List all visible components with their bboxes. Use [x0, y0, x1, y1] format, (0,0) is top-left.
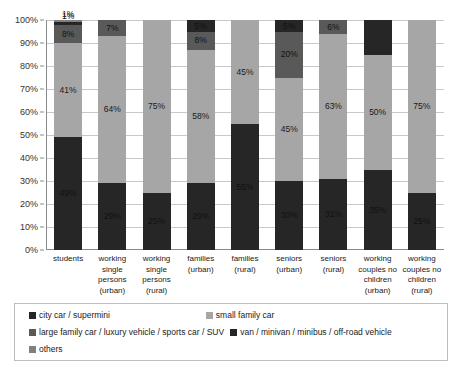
y-axis-tick-label: 60% [20, 107, 38, 117]
bar-stack[interactable]: 25%75% [143, 20, 171, 250]
bar-stack[interactable]: 30%45%20%5% [275, 20, 303, 250]
bar-value-label: 58% [192, 112, 209, 121]
legend-label: others [39, 344, 63, 354]
bar-value-label: 20% [281, 50, 298, 59]
bar-segment[interactable]: 1% [54, 22, 82, 24]
y-axis-tick-mark [40, 112, 44, 113]
bar-column: 30%45%20%5% [267, 20, 311, 250]
legend-item-van-minivan[interactable]: van / minivan / minibus / off-road vehic… [230, 327, 392, 337]
y-axis-tick-label: 100% [15, 15, 38, 25]
legend-swatch-icon [29, 329, 36, 336]
bar-value-label: 50% [369, 108, 386, 117]
x-axis-tick-label: seniors(urban) [267, 252, 311, 300]
legend-row-3: others [29, 344, 447, 361]
bar-group: 49%41%8%1%1%29%64%7%25%75%29%58%8%5%55%4… [46, 20, 444, 250]
x-axis-tick-label: students [46, 252, 90, 300]
bar-column: 29%64%7% [90, 20, 134, 250]
y-axis-tick-label: 90% [20, 38, 38, 48]
legend-label: city car / supermini [39, 310, 110, 320]
legend-item-small-family-car[interactable]: small family car [206, 310, 275, 320]
bar-segment[interactable]: 29% [98, 183, 126, 250]
bar-segment[interactable]: 20% [275, 32, 303, 78]
bar-column: 49%41%8%1%1% [46, 20, 90, 250]
bar-stack[interactable]: 35%50% [364, 20, 392, 250]
chart-legend: city car / supermini small family car la… [14, 303, 448, 361]
plot-area: 49%41%8%1%1%29%64%7%25%75%29%58%8%5%55%4… [46, 20, 444, 250]
y-axis-tick-mark [40, 43, 44, 44]
bar-segment[interactable]: 29% [187, 183, 215, 250]
bar-segment[interactable] [364, 20, 392, 55]
y-axis-tick-label: 80% [20, 61, 38, 71]
legend-swatch-icon [230, 329, 237, 336]
bar-value-label: 45% [236, 68, 253, 77]
bar-stack[interactable]: 55%45% [231, 20, 259, 250]
bar-value-label: 6% [327, 23, 339, 32]
bar-segment[interactable]: 6% [319, 20, 347, 34]
bar-segment[interactable]: 35% [364, 170, 392, 251]
x-axis-tick-label: workingsinglepersons(rural) [134, 252, 178, 300]
bar-column: 55%45% [223, 20, 267, 250]
bar-stack[interactable]: 49%41%8%1%1% [54, 20, 82, 250]
y-axis-tick-mark [40, 20, 44, 21]
bar-value-label: 1% [62, 10, 74, 18]
bar-segment[interactable]: 8% [54, 25, 82, 43]
bar-segment[interactable]: 75% [143, 20, 171, 193]
bar-segment[interactable]: 55% [231, 124, 259, 251]
x-axis-tick-label: workingcouples nochildren(urban) [356, 252, 400, 300]
bar-segment[interactable]: 49% [54, 137, 82, 250]
bar-column: 25%75% [134, 20, 178, 250]
legend-row-2: large family car / luxury vehicle / spor… [29, 327, 447, 344]
y-axis-tick-mark [40, 181, 44, 182]
x-axis-tick-label: families(rural) [223, 252, 267, 300]
y-axis-tick-mark [40, 158, 44, 159]
bar-stack[interactable]: 29%58%8%5% [187, 20, 215, 250]
bar-segment[interactable]: 31% [319, 179, 347, 250]
bar-column: 31%63%6% [311, 20, 355, 250]
bar-segment[interactable]: 58% [187, 50, 215, 183]
bar-value-label: 30% [281, 211, 298, 220]
bar-value-label: 5% [283, 22, 295, 31]
bar-value-label: 45% [281, 125, 298, 134]
bar-value-label: 75% [148, 102, 165, 111]
bar-value-label: 49% [60, 189, 77, 198]
legend-label: small family car [216, 310, 275, 320]
bar-stack[interactable]: 29%64%7% [98, 20, 126, 250]
legend-swatch-icon [29, 346, 36, 353]
bar-value-label: 63% [325, 102, 342, 111]
y-axis-tick-label: 40% [20, 153, 38, 163]
bar-segment[interactable]: 30% [275, 181, 303, 250]
y-axis-tick-mark [40, 89, 44, 90]
bar-stack[interactable]: 31%63%6% [319, 20, 347, 250]
bar-value-label: 75% [413, 102, 430, 111]
bar-segment[interactable]: 1% [54, 20, 82, 22]
bar-segment[interactable]: 25% [408, 193, 436, 251]
bar-segment[interactable]: 64% [98, 36, 126, 183]
bar-value-label: 35% [369, 206, 386, 215]
y-axis-tick-label: 50% [20, 130, 38, 140]
bar-value-label: 55% [236, 183, 253, 192]
bar-segment[interactable]: 41% [54, 43, 82, 137]
bar-segment[interactable]: 5% [187, 20, 215, 32]
bar-segment[interactable]: 8% [187, 32, 215, 50]
bar-value-label: 64% [104, 105, 121, 114]
bar-stack[interactable]: 25%75% [408, 20, 436, 250]
bar-value-label: 25% [148, 217, 165, 226]
bar-value-label: 41% [60, 86, 77, 95]
bar-segment[interactable]: 5% [275, 20, 303, 32]
stacked-bar-chart: 0%10%20%30%40%50%60%70%80%90%100% 49%41%… [0, 0, 460, 371]
bar-value-label: 29% [104, 212, 121, 221]
bar-segment[interactable]: 63% [319, 34, 347, 179]
x-axis-labels: studentsworkingsinglepersons(urban)worki… [46, 252, 444, 300]
bar-segment[interactable]: 50% [364, 55, 392, 170]
legend-item-others[interactable]: others [29, 344, 63, 354]
bar-column: 25%75% [400, 20, 444, 250]
legend-swatch-icon [206, 312, 213, 319]
legend-item-large-family-car[interactable]: large family car / luxury vehicle / spor… [29, 327, 224, 337]
bar-segment[interactable]: 7% [98, 20, 126, 36]
bar-segment[interactable]: 45% [231, 20, 259, 124]
bar-segment[interactable]: 75% [408, 20, 436, 193]
bar-segment[interactable]: 45% [275, 78, 303, 182]
bar-value-label: 29% [192, 212, 209, 221]
legend-item-city-car[interactable]: city car / supermini [29, 310, 110, 320]
bar-segment[interactable]: 25% [143, 193, 171, 251]
